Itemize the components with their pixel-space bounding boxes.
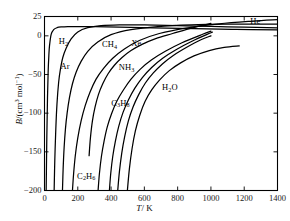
virial-coefficient-chart: 250−50−100−150−200 020040060080010001200… xyxy=(0,0,289,221)
curve-label-ch4: CH4 xyxy=(102,40,117,49)
x-tick-label: 1400 xyxy=(258,194,290,203)
curve-he xyxy=(46,27,277,191)
x-axis-title: T/ K xyxy=(0,203,289,213)
curve-label-c2h6: C2H6 xyxy=(77,172,95,181)
plot-frame xyxy=(45,17,278,191)
curve-label-h2: H2 xyxy=(59,37,68,46)
x-axis-units: / K xyxy=(141,203,152,213)
curve-label-xe: Xe xyxy=(131,39,141,48)
data-curves xyxy=(46,20,277,191)
curve-label-nh3: NH3 xyxy=(119,63,135,72)
curve-c3h8 xyxy=(98,31,211,190)
axis-ticks xyxy=(45,17,278,191)
curve-h2 xyxy=(54,25,277,191)
y-tick-label: −50 xyxy=(28,70,41,79)
curve-label-he: He xyxy=(250,17,260,26)
y-tick-label: −150 xyxy=(24,147,42,156)
curve-h2o xyxy=(127,46,239,191)
curve-nh3 xyxy=(118,36,211,191)
y-axis-sup-b: −1 xyxy=(13,76,20,83)
plot-canvas xyxy=(0,0,289,221)
y-axis-symbol: B xyxy=(14,119,24,125)
y-tick-label: 25 xyxy=(33,12,42,21)
y-axis-units-a: /(cm xyxy=(14,103,24,120)
y-axis-title: B/(cm3 mol−1) xyxy=(14,44,24,154)
curve-label-h2o: H2O xyxy=(162,83,178,92)
y-axis-sup-a: 3 xyxy=(13,99,20,102)
y-tick-label: 0 xyxy=(37,31,41,40)
y-axis-units-b: mol xyxy=(14,83,24,99)
curve-label-c3h8: C3H8 xyxy=(111,99,129,108)
y-tick-label: −100 xyxy=(24,108,42,117)
curve-label-ar: Ar xyxy=(60,62,69,71)
